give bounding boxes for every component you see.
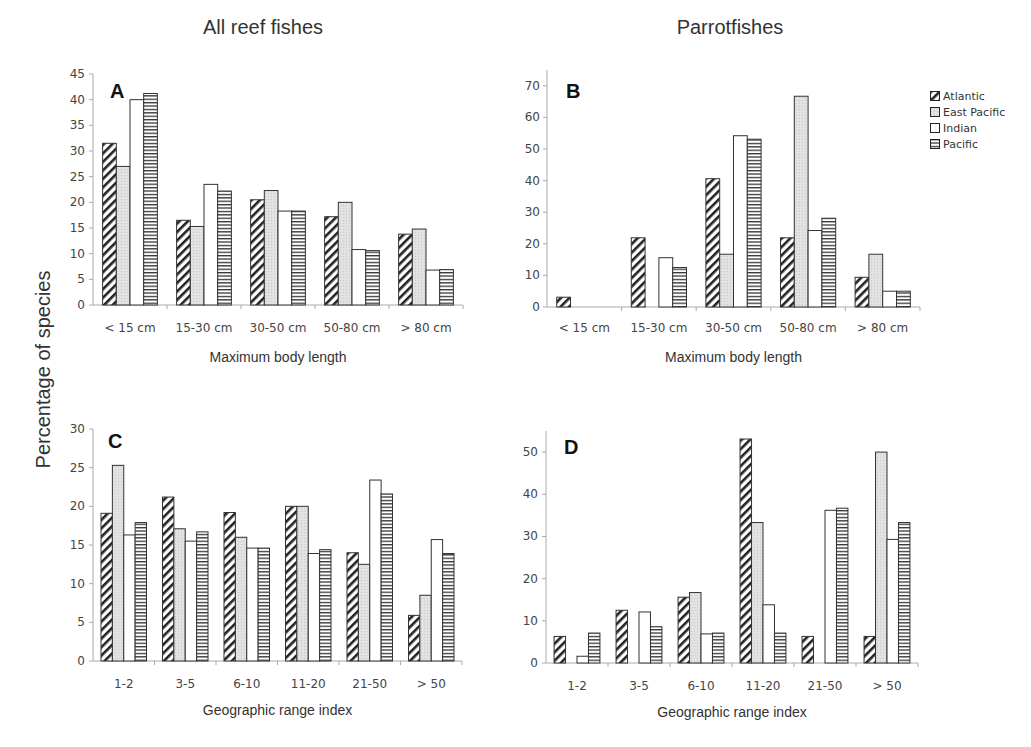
y-tick-label: 5 [77, 615, 85, 629]
bar-east-pacific [794, 96, 808, 307]
bar-pacific [381, 494, 392, 661]
x-tick-label: 6-10 [687, 679, 714, 693]
bar-east-pacific [876, 452, 887, 663]
y-tick-label: 0 [77, 654, 85, 668]
bar-indian [308, 554, 319, 661]
bar-indian [887, 539, 898, 663]
bar-indian [883, 291, 897, 307]
bar-atlantic [740, 439, 751, 663]
bar-pacific [320, 550, 331, 661]
x-axis-title: Maximum body length [665, 349, 802, 365]
bar-east-pacific [869, 254, 883, 307]
x-tick-label: 11-20 [746, 679, 781, 693]
bar-east-pacific [752, 523, 763, 663]
bar-pacific [836, 508, 847, 663]
bar-indian [124, 535, 135, 661]
y-tick-label: 0 [532, 300, 540, 314]
y-tick-label: 50 [523, 445, 538, 459]
bar-pacific [366, 251, 380, 305]
bar-east-pacific [420, 595, 431, 661]
bar-pacific [588, 633, 599, 663]
bar-indian [278, 211, 292, 305]
bar-pacific [650, 627, 661, 663]
y-tick-label: 10 [70, 247, 85, 261]
x-tick-label: 21-50 [352, 677, 387, 691]
bar-indian [577, 656, 588, 663]
bar-atlantic [780, 238, 794, 307]
x-tick-label: > 80 cm [857, 321, 908, 335]
bar-east-pacific [358, 564, 369, 661]
x-axis-title: Geographic range index [203, 702, 352, 718]
bar-indian [825, 510, 836, 663]
y-tick-label: 30 [70, 144, 85, 158]
bar-pacific [443, 554, 454, 661]
x-tick-label: 50-80 cm [324, 321, 381, 335]
dotted-gray-swatch-icon [930, 107, 940, 117]
bar-east-pacific [338, 202, 352, 305]
panel-label: C [108, 430, 122, 452]
x-axis-title: Geographic range index [657, 704, 806, 720]
x-tick-label: 15-30 cm [630, 321, 687, 335]
y-tick-label: 15 [70, 221, 85, 235]
y-tick-label: 0 [77, 298, 85, 312]
bar-indian [130, 100, 144, 305]
y-tick-label: 25 [70, 170, 85, 184]
horizontal-hatch-swatch-icon [930, 139, 940, 149]
bar-atlantic [285, 506, 296, 661]
x-tick-label: 6-10 [233, 677, 260, 691]
y-tick-label: 20 [70, 195, 85, 209]
bar-atlantic [162, 497, 173, 661]
x-tick-label: 1-2 [567, 679, 587, 693]
y-tick-label: 15 [70, 538, 85, 552]
bar-pacific [197, 532, 208, 661]
bar-atlantic [631, 238, 645, 307]
legend-label: Atlantic [943, 90, 985, 103]
bar-east-pacific [116, 166, 130, 305]
bar-east-pacific [174, 529, 185, 661]
bar-pacific [673, 268, 687, 308]
bar-atlantic [399, 234, 413, 305]
x-tick-label: 11-20 [291, 677, 326, 691]
y-tick-label: 70 [525, 79, 540, 93]
bar-atlantic [103, 143, 117, 305]
x-tick-label: 1-2 [114, 677, 134, 691]
bar-pacific [258, 548, 269, 661]
diagonal-hatch-swatch-icon [930, 91, 940, 101]
x-tick-label: 15-30 cm [176, 321, 233, 335]
bar-pacific [712, 633, 723, 663]
bar-east-pacific [235, 537, 246, 661]
chart-canvas: 051015202530354045< 15 cm15-30 cm30-50 c… [0, 0, 1031, 747]
bar-indian [247, 548, 258, 661]
legend: Atlantic East Pacific Indian Pacific [930, 88, 1005, 152]
bar-indian [701, 634, 712, 663]
y-tick-label: 30 [70, 422, 85, 436]
y-tick-label: 40 [523, 487, 538, 501]
bar-indian [185, 541, 196, 661]
bar-pacific [822, 218, 836, 307]
y-tick-label: 50 [525, 142, 540, 156]
bar-indian [659, 258, 673, 307]
y-tick-label: 40 [70, 93, 85, 107]
x-tick-label: 30-50 cm [705, 321, 762, 335]
bar-atlantic [557, 297, 571, 307]
bar-atlantic [224, 513, 235, 661]
bar-atlantic [802, 636, 813, 663]
x-tick-label: > 50 [417, 677, 446, 691]
bar-atlantic [177, 220, 191, 305]
bar-pacific [774, 633, 785, 663]
bar-east-pacific [297, 506, 308, 661]
bar-indian [352, 250, 366, 305]
x-tick-label: < 15 cm [104, 321, 155, 335]
bar-east-pacific [412, 229, 426, 305]
y-tick-label: 35 [70, 118, 85, 132]
bar-atlantic [101, 513, 112, 661]
y-tick-label: 5 [77, 272, 85, 286]
bar-indian [639, 612, 650, 663]
bar-pacific [218, 191, 232, 305]
x-tick-label: > 50 [872, 679, 901, 693]
y-tick-label: 45 [70, 67, 85, 81]
legend-label: East Pacific [943, 106, 1005, 119]
bar-atlantic [325, 217, 339, 305]
x-tick-label: 30-50 cm [250, 321, 307, 335]
panel-label: D [564, 436, 578, 458]
